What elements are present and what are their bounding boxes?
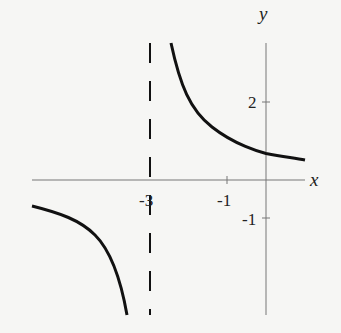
curve-right-branch xyxy=(171,43,305,160)
y-tick-label-neg1: -1 xyxy=(242,210,256,229)
y-tick-label-2: 2 xyxy=(248,93,257,112)
x-tick-label-neg3: -3 xyxy=(139,191,153,210)
x-axis-label: x xyxy=(309,169,319,190)
x-tick-label-neg1: -1 xyxy=(217,191,231,210)
curve-left-branch xyxy=(32,206,127,315)
function-graph: x y -3 -1 2 -1 xyxy=(0,0,341,333)
y-axis-label: y xyxy=(257,3,268,24)
